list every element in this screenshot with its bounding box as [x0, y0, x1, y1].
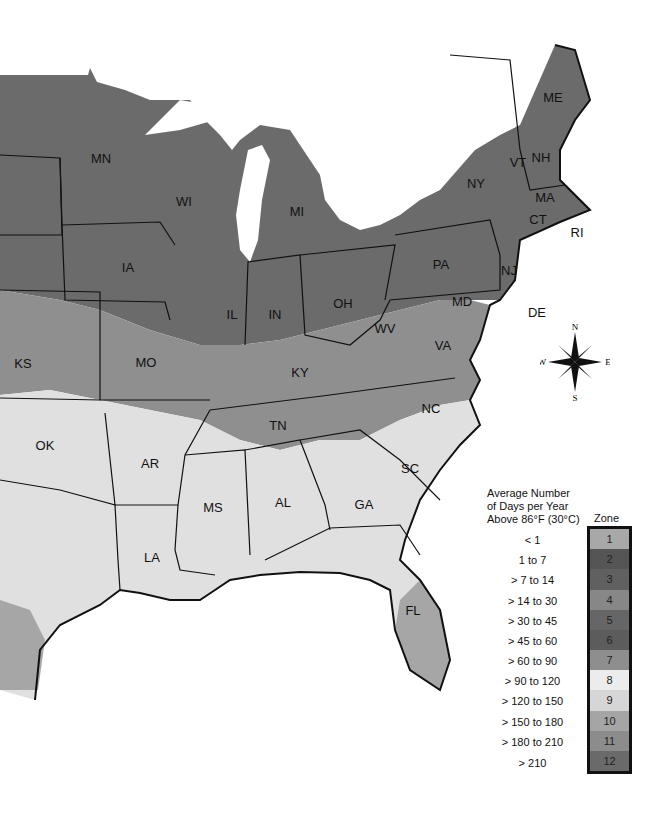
state-label-in: IN: [269, 307, 282, 322]
zone-header: Zone: [594, 512, 619, 524]
state-label-md: MD: [452, 294, 472, 309]
zone-swatch-8: 8: [590, 670, 629, 690]
zone-swatch-5: 5: [590, 610, 629, 630]
legend-title-line-2: of Days per Year: [487, 500, 580, 513]
zone-swatch-9: 9: [590, 690, 629, 710]
zone-swatch-12: 12: [590, 751, 629, 771]
zone-swatch-11: 11: [590, 731, 629, 751]
state-label-nh: NH: [532, 150, 551, 165]
state-label-vt: VT: [510, 155, 527, 170]
state-label-wi: WI: [176, 194, 192, 209]
state-label-sc: SC: [401, 461, 419, 476]
state-label-al: AL: [275, 495, 291, 510]
zone-swatch-10: 10: [590, 711, 629, 731]
state-label-va: VA: [435, 338, 451, 353]
compass-s: S: [572, 393, 577, 402]
state-label-nj: NJ: [501, 263, 517, 278]
zone-swatch-1: 1: [590, 529, 629, 549]
state-label-ok: OK: [36, 438, 55, 453]
state-label-ks: KS: [14, 356, 31, 371]
state-label-ga: GA: [355, 497, 374, 512]
state-label-de: DE: [528, 305, 546, 320]
state-label-mo: MO: [136, 355, 157, 370]
compass-n: N: [572, 322, 579, 332]
state-label-ny: NY: [467, 176, 485, 191]
state-label-me: ME: [543, 90, 563, 105]
zone-range-11: > 180 to 210: [480, 736, 585, 748]
legend-title-line-1: Average Number: [487, 487, 580, 500]
state-label-fl: FL: [405, 603, 420, 618]
zone-range-10: > 150 to 180: [480, 716, 585, 728]
state-label-wv: WV: [375, 321, 396, 336]
state-label-ar: AR: [141, 456, 159, 471]
state-label-nc: NC: [422, 401, 441, 416]
zone-range-4: > 14 to 30: [480, 595, 585, 607]
zone-range-7: > 60 to 90: [480, 655, 585, 667]
state-label-oh: OH: [333, 296, 353, 311]
compass-rose: N S W E: [540, 322, 610, 402]
zone-range-8: > 90 to 120: [480, 675, 585, 687]
zone-range-12: > 210: [480, 757, 585, 769]
state-label-il: IL: [227, 307, 238, 322]
compass-w: W: [540, 357, 547, 367]
legend-title: Average Number of Days per Year Above 86…: [487, 487, 580, 526]
compass-e: E: [605, 357, 610, 367]
state-label-pa: PA: [433, 257, 449, 272]
state-label-mn: MN: [91, 151, 111, 166]
state-label-la: LA: [144, 550, 160, 565]
state-label-ri: RI: [571, 225, 584, 240]
zone-range-9: > 120 to 150: [480, 695, 585, 707]
zone-swatch-2: 2: [590, 549, 629, 569]
zone-range-6: > 45 to 60: [480, 635, 585, 647]
state-label-tn: TN: [269, 418, 286, 433]
zone-color-bar: 1 2 3 4 5 6 7 8 9 10 11 12: [587, 526, 632, 774]
zone-range-3: > 7 to 14: [480, 574, 585, 586]
zone-swatch-3: 3: [590, 569, 629, 589]
zone-range-2: 1 to 7: [480, 554, 585, 566]
legend-title-line-3: Above 86°F (30°C): [487, 513, 580, 526]
state-label-ky: KY: [291, 365, 308, 380]
state-label-mi: MI: [290, 204, 304, 219]
zone-swatch-7: 7: [590, 650, 629, 670]
zone-range-5: > 30 to 45: [480, 615, 585, 627]
state-label-ms: MS: [203, 500, 223, 515]
state-label-ct: CT: [529, 212, 546, 227]
zone-range-1: < 1: [480, 534, 585, 546]
zone-swatch-6: 6: [590, 630, 629, 650]
state-label-ia: IA: [122, 260, 134, 275]
compass-star-icon: N S W E: [540, 322, 610, 402]
state-label-ma: MA: [535, 190, 555, 205]
zone-swatch-4: 4: [590, 590, 629, 610]
